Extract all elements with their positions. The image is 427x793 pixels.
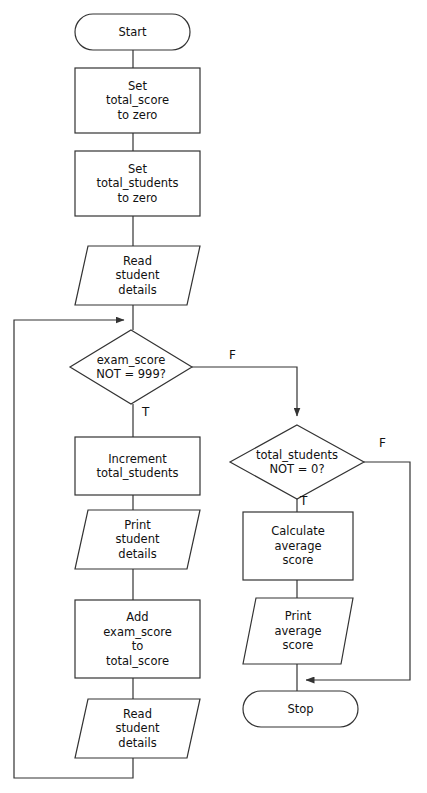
- connector-decision-exam-false-to-decision-total-students: [192, 367, 297, 416]
- flowchart-canvas: Start Set total_score to zero Set total_…: [0, 0, 427, 793]
- connector-loop-back-to-decision-exam-score: [14, 320, 133, 778]
- shape-stop: [243, 691, 358, 727]
- edge-label-exam-score-true: T: [142, 406, 149, 419]
- edge-label-exam-score-false: F: [229, 349, 236, 362]
- flowchart-graphics: [0, 0, 427, 793]
- shape-start: [75, 14, 190, 50]
- edge-label-total-students-false: F: [379, 437, 386, 450]
- edge-label-total-students-true: T: [300, 495, 307, 508]
- shape-read-student-details-2: [75, 699, 200, 758]
- connector-decision-total-false-to-stop: [306, 462, 410, 680]
- shape-calculate-average-score: [243, 512, 353, 580]
- shape-set-total-score: [75, 68, 200, 133]
- shape-read-student-details-1: [75, 246, 200, 305]
- shape-decision-exam-score: [70, 330, 192, 404]
- shape-increment-total-students: [75, 437, 200, 495]
- shape-add-exam-score: [75, 600, 200, 678]
- shape-decision-total-students: [230, 425, 364, 499]
- shape-print-average-score: [243, 598, 353, 664]
- shape-print-student-details: [75, 510, 200, 569]
- shape-set-total-students: [75, 151, 200, 216]
